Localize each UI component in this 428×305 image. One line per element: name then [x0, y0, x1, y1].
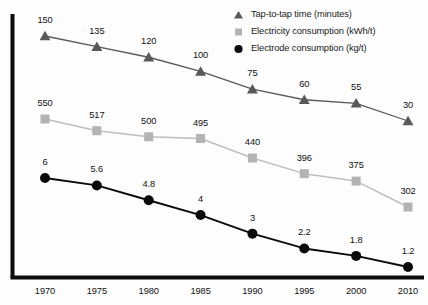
x-tick-label: 1990: [242, 286, 262, 296]
data-point-label: 150: [37, 15, 52, 25]
data-point-marker[interactable]: [41, 115, 50, 124]
data-point-label: 500: [141, 116, 156, 126]
data-point-label: 75: [247, 68, 257, 78]
data-point-marker[interactable]: [247, 84, 258, 93]
data-point-label: 517: [89, 110, 104, 120]
data-point-label: 1.8: [350, 235, 363, 245]
data-point-label: 60: [299, 79, 309, 89]
data-point-label: 135: [89, 26, 104, 36]
x-tick-label: 1975: [87, 286, 107, 296]
data-point-marker[interactable]: [248, 154, 257, 163]
data-point-label: 550: [37, 98, 52, 108]
data-point-marker[interactable]: [40, 173, 50, 183]
data-point-label: 375: [349, 160, 364, 170]
data-point-label: 6: [42, 157, 47, 167]
legend-item-tap-to-tap-time[interactable]: Tap-to-tap time (minutes): [232, 6, 428, 22]
data-point-label: 4.8: [142, 179, 155, 189]
x-tick-label: 2000: [346, 286, 366, 296]
data-point-marker[interactable]: [144, 195, 154, 205]
data-point-marker[interactable]: [351, 251, 361, 261]
x-tick-label: 1970: [35, 286, 55, 296]
data-point-label: 30: [403, 100, 413, 110]
square-marker-icon: [232, 25, 245, 38]
data-point-label: 396: [297, 153, 312, 163]
x-tick-label: 1995: [294, 286, 314, 296]
data-point-marker[interactable]: [92, 126, 101, 135]
data-point-label: 55: [351, 82, 361, 92]
data-point-marker[interactable]: [40, 31, 51, 40]
chart-container: 1501351201007560553055051750049544039637…: [0, 0, 428, 305]
legend-item-electricity-consumption[interactable]: Electricity consumption (kWh/t): [232, 23, 428, 39]
legend-label-electricity-consumption: Electricity consumption (kWh/t): [251, 26, 376, 36]
data-point-marker[interactable]: [92, 180, 102, 190]
x-tick-label: 1985: [190, 286, 210, 296]
x-tick-label: 2010: [398, 286, 418, 296]
data-point-marker[interactable]: [196, 134, 205, 143]
chart-legend: Tap-to-tap time (minutes) Electricity co…: [232, 6, 428, 57]
data-point-label: 2.2: [298, 227, 311, 237]
data-point-label: 302: [400, 186, 415, 196]
data-point-marker[interactable]: [247, 229, 257, 239]
data-point-marker[interactable]: [299, 243, 309, 253]
data-point-label: 1.2: [402, 246, 415, 256]
x-tick-label: 1980: [139, 286, 159, 296]
data-point-label: 3: [250, 213, 255, 223]
data-point-marker[interactable]: [352, 177, 361, 186]
triangle-marker-icon: [232, 8, 245, 21]
legend-item-electrode-consumption[interactable]: Electrode consumption (kg/t): [232, 40, 428, 56]
data-point-label: 4: [198, 194, 203, 204]
data-point-marker[interactable]: [403, 116, 414, 125]
data-point-marker[interactable]: [404, 203, 413, 212]
data-point-marker[interactable]: [196, 210, 206, 220]
legend-label-tap-to-tap-time: Tap-to-tap time (minutes): [251, 9, 352, 19]
data-point-marker[interactable]: [300, 169, 309, 178]
circle-marker-icon: [232, 42, 245, 55]
data-point-label: 120: [141, 36, 156, 46]
data-point-label: 495: [193, 118, 208, 128]
data-point-label: 5.6: [91, 164, 104, 174]
data-point-label: 440: [245, 137, 260, 147]
data-point-marker[interactable]: [403, 262, 413, 272]
data-point-marker[interactable]: [144, 132, 153, 141]
legend-label-electrode-consumption: Electrode consumption (kg/t): [251, 43, 367, 53]
data-point-label: 100: [193, 50, 208, 60]
